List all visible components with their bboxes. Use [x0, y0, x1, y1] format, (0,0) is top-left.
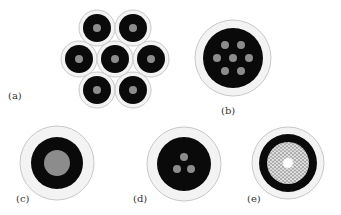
fiber-core [93, 24, 101, 32]
fiber-core [213, 54, 221, 62]
panel-label-a: (a) [8, 90, 22, 101]
fiber-core [147, 55, 155, 63]
fiber-core [111, 55, 119, 63]
fiber-core [187, 165, 195, 173]
fiber-core [75, 55, 83, 63]
fiber-core [237, 41, 245, 49]
fiber-core [229, 54, 237, 62]
fiber-core [237, 67, 245, 75]
fiber-coating [157, 137, 211, 191]
panel-label-e: (e) [247, 193, 261, 204]
panel-label-c: (c) [16, 193, 29, 204]
panel-label-b: (b) [221, 105, 235, 116]
fiber-core [221, 41, 229, 49]
fiber-core [44, 150, 70, 176]
panel-d-three-core-fiber [147, 127, 221, 201]
fiber-core [245, 54, 253, 62]
fiber-cross-section-figure [0, 0, 341, 215]
panel-b-seven-core-fiber [195, 20, 271, 96]
fiber-core [93, 86, 101, 94]
solid-core [282, 157, 294, 169]
panel-a-seven-fiber-bundle [61, 10, 169, 108]
fiber-core [129, 24, 137, 32]
panel-e-photonic-crystal-fiber [252, 127, 324, 199]
panel-label-d: (d) [133, 193, 147, 204]
fiber-core [129, 86, 137, 94]
fiber-core [173, 165, 181, 173]
fiber-core [221, 67, 229, 75]
panel-c-large-core-fiber [20, 126, 94, 200]
fiber-core [180, 153, 188, 161]
